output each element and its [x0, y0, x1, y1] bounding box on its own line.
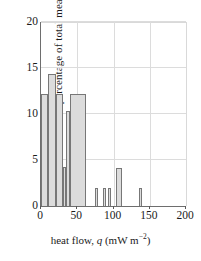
x-axis-tick-labels: 050100150200	[0, 206, 201, 226]
x-axis-label-exponent: −2	[139, 232, 147, 241]
histogram-bar	[48, 74, 55, 206]
histogram-bars	[41, 22, 186, 206]
y-axis-tick-label: 5	[12, 154, 38, 165]
histogram-bar	[56, 94, 63, 206]
histogram-bar	[116, 168, 122, 206]
x-axis-label-pre: heat flow,	[51, 234, 97, 246]
x-axis-label-close: )	[147, 234, 151, 246]
histogram-bar	[139, 188, 142, 206]
x-axis-label: heat flow, q (mW m−2)	[0, 232, 201, 246]
y-axis-tick-label: 20	[12, 16, 38, 27]
histogram-bar	[41, 94, 48, 206]
histogram-bar	[70, 94, 86, 206]
y-axis-tick-label: 15	[12, 62, 38, 73]
heat-flow-histogram-figure: percentage of total measurements 0510152…	[0, 0, 201, 261]
x-axis-tick-label: 50	[56, 209, 96, 222]
histogram-bar	[108, 188, 111, 206]
y-axis-tick-label: 10	[12, 108, 38, 119]
histogram-bar	[103, 188, 106, 206]
x-axis-tick-label: 100	[93, 209, 133, 222]
histogram-bar	[95, 188, 98, 206]
plot-frame-right	[186, 22, 187, 206]
x-axis-tick-label: 150	[129, 209, 169, 222]
plot-area	[40, 22, 186, 207]
x-axis-label-post: (mW m	[102, 234, 138, 246]
x-axis-tick-label: 200	[165, 209, 201, 222]
x-axis-tick-label: 0	[20, 209, 60, 222]
